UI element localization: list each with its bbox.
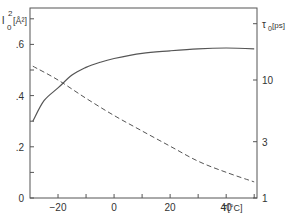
tick-label: .6 [16, 39, 25, 50]
svg-text:[Å²]: [Å²] [13, 16, 27, 26]
left-axis-title: l 2 0 [Å²] [2, 9, 27, 32]
x-axis-title: T[°C] [222, 203, 243, 213]
y-left-axis-ticks: 0.2.4.6 [16, 19, 34, 204]
tick-label: .4 [16, 91, 25, 102]
l0-squared-curve [33, 48, 254, 121]
tick-label: 1 [262, 193, 268, 204]
tick-label: −20 [50, 202, 67, 213]
svg-text:τ: τ [262, 19, 266, 30]
svg-text:0: 0 [7, 23, 12, 32]
tick-label: 10 [262, 75, 274, 86]
tick-label: 0 [18, 193, 24, 204]
tick-label: 0 [111, 202, 117, 213]
tick-label: .2 [16, 142, 25, 153]
tick-label: 3 [262, 137, 268, 148]
svg-text:[ps]: [ps] [272, 21, 285, 30]
tau0-curve [33, 66, 254, 182]
right-axis-title: τ 0 [ps] [262, 19, 285, 32]
tick-label: 20 [165, 202, 177, 213]
y-right-axis-ticks: 1310 [253, 24, 274, 204]
chart: −2002040 0.2.4.6 1310 l 2 0 [Å²] τ 0 [ps… [0, 0, 289, 217]
plot-frame [30, 8, 257, 198]
svg-text:l: l [2, 14, 4, 26]
